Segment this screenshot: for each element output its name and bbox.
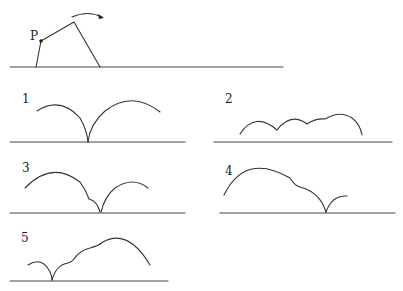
panel-2-scalloped-curve	[240, 114, 362, 135]
point-p-label: P	[30, 29, 38, 43]
panel-4-right-arc	[326, 196, 347, 212]
panel-2: 2	[214, 92, 392, 142]
panel-5-left-arc	[28, 262, 52, 280]
panel-1: 1	[10, 92, 185, 142]
top-figure-linkage: P	[10, 14, 283, 68]
panel-5-label: 5	[21, 231, 29, 245]
panel-3-label: 3	[22, 161, 30, 175]
panel-1-label: 1	[22, 92, 30, 106]
panel-5: 5	[10, 231, 168, 281]
panel-1-right-arc	[88, 101, 160, 142]
panel-4-label: 4	[225, 164, 233, 178]
arrow-head-icon	[98, 14, 104, 19]
rotation-arrow-icon	[72, 14, 102, 18]
diagram-canvas: P 1 2 3 4 5	[0, 0, 403, 291]
panel-2-label: 2	[225, 92, 233, 106]
linkage-polyline	[36, 22, 100, 67]
panel-3-left-arc	[25, 172, 100, 212]
panel-1-left-arc	[37, 105, 88, 142]
panel-3: 3	[10, 161, 185, 213]
panel-5-right-arc	[52, 238, 150, 280]
panel-3-right-arc	[101, 182, 148, 212]
point-p-dot	[39, 39, 43, 43]
panel-4-left-arc	[224, 168, 326, 212]
panel-4: 4	[220, 164, 395, 213]
